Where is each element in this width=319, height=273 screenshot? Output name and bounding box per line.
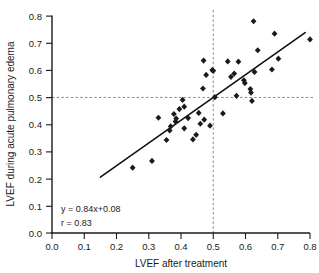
- x-axis-title: LVEF after treatment: [135, 258, 227, 269]
- data-point: [181, 104, 187, 110]
- y-tick-label: 0.6: [29, 65, 42, 76]
- data-point: [176, 106, 182, 112]
- y-tick-label: 0.4: [29, 119, 42, 130]
- regression-equation-annotation: y = 0.84x+0.08: [61, 204, 121, 214]
- data-point: [272, 31, 278, 37]
- plot-canvas: 0.8 0.7 0.6 0.5 0.4 0.3 0.2 0.1 0.0 0.0 …: [0, 0, 319, 273]
- data-point: [234, 93, 240, 99]
- x-tick-label: 0.6: [239, 241, 252, 252]
- x-tick-label: 0.8: [303, 241, 316, 252]
- y-tick-label: 0.3: [29, 146, 42, 157]
- y-tick-label: 0.5: [29, 92, 42, 103]
- data-point: [200, 85, 206, 91]
- y-tick-label: 0.2: [29, 174, 42, 185]
- annotations: y = 0.84x+0.08 r = 0.83: [61, 204, 121, 228]
- data-point: [149, 158, 155, 164]
- x-tick-label: 0.4: [174, 241, 187, 252]
- data-point: [207, 123, 213, 129]
- x-tick-labels: 0.0 0.1 0.2 0.3 0.4 0.5 0.6 0.7 0.8: [45, 241, 316, 252]
- correlation-annotation: r = 0.83: [61, 218, 92, 228]
- data-point: [255, 47, 261, 53]
- y-axis-title: LVEF during acute pulmonary edema: [5, 41, 16, 206]
- data-point: [164, 137, 170, 143]
- y-tick-label: 0.1: [29, 201, 42, 212]
- data-point: [193, 132, 199, 138]
- data-point: [181, 125, 187, 131]
- y-tick-label: 0.0: [29, 228, 42, 239]
- data-point: [225, 58, 231, 64]
- regression-line-group: [100, 33, 305, 178]
- data-points: [130, 18, 313, 171]
- data-point: [197, 121, 203, 127]
- x-tick-label: 0.7: [271, 241, 284, 252]
- data-point: [156, 115, 162, 121]
- data-point: [203, 72, 209, 78]
- y-tick-label: 0.8: [29, 11, 42, 22]
- data-point: [220, 110, 226, 116]
- data-point: [201, 57, 207, 63]
- x-tick-label: 0.0: [45, 241, 58, 252]
- y-tick-labels: 0.8 0.7 0.6 0.5 0.4 0.3 0.2 0.1 0.0: [29, 11, 42, 239]
- x-tick-label: 0.3: [142, 241, 155, 252]
- data-point: [249, 98, 255, 104]
- data-point: [196, 110, 202, 116]
- data-point: [201, 117, 207, 123]
- x-tick-label: 0.5: [207, 241, 220, 252]
- data-point: [269, 66, 275, 72]
- x-tick-label: 0.2: [110, 241, 123, 252]
- regression-line: [100, 33, 305, 178]
- data-point: [130, 165, 136, 171]
- data-point: [236, 59, 242, 65]
- data-point: [307, 36, 313, 42]
- y-tick-label: 0.7: [29, 38, 42, 49]
- data-point: [275, 56, 281, 62]
- scatter-plot-figure: 0.8 0.7 0.6 0.5 0.4 0.3 0.2 0.1 0.0 0.0 …: [0, 0, 319, 273]
- data-point: [251, 18, 257, 24]
- reference-lines: [52, 10, 315, 233]
- data-point: [190, 136, 196, 142]
- x-tick-label: 0.1: [78, 241, 91, 252]
